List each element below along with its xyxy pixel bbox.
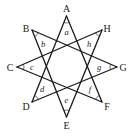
vertex-labels: ABCDEFGH [7,3,127,131]
vertex-label-A: A [63,3,71,14]
angle-arc-A [64,22,69,23]
vertex-label-B: B [23,23,30,34]
angle-arc-H [96,33,100,37]
angle-label-b: b [41,39,45,49]
angle-label-a: a [64,27,68,37]
angle-label-d: d [40,84,45,94]
angle-label-h: h [87,39,91,49]
vertex-label-H: H [103,23,110,34]
vertex-label-E: E [63,120,69,131]
angle-label-f: f [89,84,93,94]
angle-label-g: g [97,62,101,72]
angle-arc-E [64,110,69,111]
vertex-label-C: C [7,62,14,73]
vertex-label-F: F [104,101,110,112]
star-diagram: ABCDEFGH abcdefgh [0,0,133,137]
edge-AD [32,16,67,102]
vertex-label-D: D [22,101,29,112]
angle-arc-G [110,64,111,69]
angle-labels: abcdefgh [30,27,101,105]
angle-label-c: c [30,62,34,72]
angle-arc-D [35,96,39,100]
angle-arc-C [23,64,24,69]
vertex-label-G: G [119,62,126,73]
angle-arc-F [96,96,100,100]
angle-arc-B [35,33,39,37]
angle-label-e: e [65,95,69,105]
